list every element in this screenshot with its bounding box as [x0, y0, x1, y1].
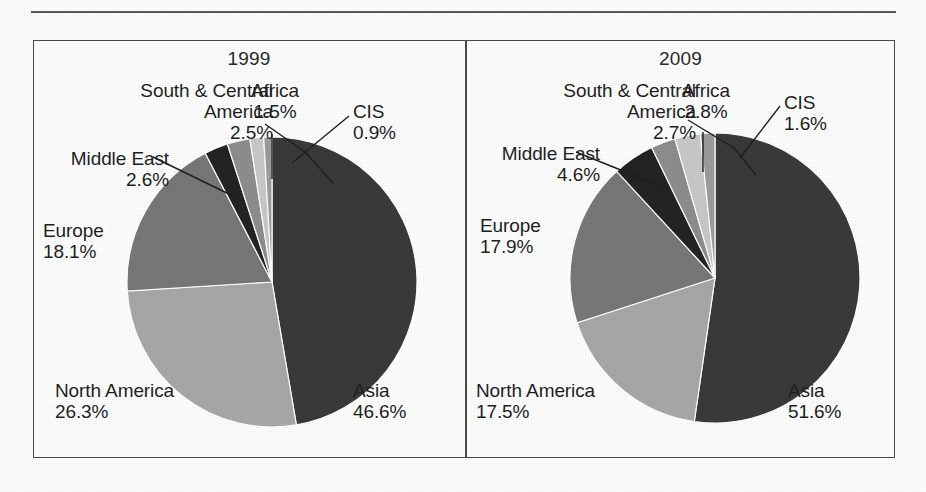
slice-label-middle-east: Middle East 2.6%: [33, 148, 169, 190]
slice-label-cis: CIS 0.9%: [353, 101, 433, 143]
slice-label-middle-east: Middle East 4.6%: [466, 143, 600, 185]
figure-root: 1999 South & Central America 2.5%Africa …: [0, 0, 926, 492]
slice-label-cis: CIS 1.6%: [784, 92, 864, 134]
slice-label-asia: Asia 46.6%: [353, 380, 441, 422]
slice-label-europe: Europe 17.9%: [480, 215, 572, 257]
slice-label-africa: Africa 1.5%: [229, 80, 321, 122]
slice-label-asia: Asia 51.6%: [788, 380, 876, 422]
slice-label-europe: Europe 18.1%: [43, 220, 135, 262]
top-rule: [31, 11, 896, 13]
slice-label-north-america: North America 17.5%: [476, 380, 636, 422]
panel-1999: 1999 South & Central America 2.5%Africa …: [33, 40, 465, 458]
slice-label-africa: Africa 2.8%: [660, 80, 752, 122]
panel-2009: 2009 South & Central America 2.7%Africa …: [466, 40, 895, 458]
slice-label-north-america: North America 26.3%: [55, 380, 215, 422]
